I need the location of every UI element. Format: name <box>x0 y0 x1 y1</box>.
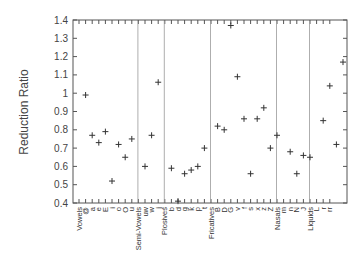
y-tick-label: 0.9 <box>54 106 68 117</box>
data-point-marker <box>129 136 135 142</box>
data-points <box>83 22 346 204</box>
data-point-marker <box>234 74 240 80</box>
data-point-marker <box>261 105 267 111</box>
data-point-marker <box>221 127 227 133</box>
plot-frame <box>73 20 347 203</box>
y-tick-label: 1.4 <box>54 15 68 26</box>
data-point-marker <box>340 59 346 65</box>
data-point-marker <box>168 165 174 171</box>
data-point-marker <box>122 154 128 160</box>
data-point-marker <box>267 145 273 151</box>
data-point-marker <box>215 123 221 129</box>
data-point-marker <box>327 83 333 89</box>
data-point-marker <box>248 171 254 177</box>
y-tick-label: 1.1 <box>54 69 68 80</box>
data-point-marker <box>142 163 148 169</box>
data-point-marker <box>96 140 102 146</box>
data-point-marker <box>188 167 194 173</box>
data-point-marker <box>228 22 234 28</box>
y-tick-label: 0.4 <box>54 198 68 209</box>
data-point-marker <box>241 116 247 122</box>
y-axis: 0.40.50.60.70.80.911.11.21.31.4 <box>54 15 347 209</box>
data-point-marker <box>109 178 115 184</box>
y-tick-label: 0.7 <box>54 143 68 154</box>
data-point-marker <box>274 132 280 138</box>
data-point-marker <box>102 129 108 135</box>
y-tick-label: 1.3 <box>54 33 68 44</box>
data-point-marker <box>89 132 95 138</box>
y-tick-label: 1.2 <box>54 51 68 62</box>
data-point-marker <box>182 171 188 177</box>
data-point-marker <box>201 145 207 151</box>
data-point-marker <box>195 163 201 169</box>
data-point-marker <box>149 132 155 138</box>
y-tick-label: 0.5 <box>54 179 68 190</box>
data-point-marker <box>320 118 326 124</box>
scatter-chart: Reduction Ratio 0.40.50.60.70.80.911.11.… <box>0 0 363 266</box>
data-point-marker <box>116 141 122 147</box>
data-point-marker <box>287 149 293 155</box>
data-point-marker <box>333 141 339 147</box>
data-point-marker <box>155 79 161 85</box>
y-tick-label: 1 <box>62 88 68 99</box>
data-point-marker <box>254 116 260 122</box>
data-point-marker <box>307 154 313 160</box>
data-point-marker <box>83 92 89 98</box>
x-axis: Vowels@aeEioOuSemi-VowelsuwwjPlosivesbdg… <box>75 20 335 250</box>
y-tick-label: 0.8 <box>54 124 68 135</box>
data-point-marker <box>300 152 306 158</box>
y-tick-label: 0.6 <box>54 161 68 172</box>
data-point-marker <box>294 171 300 177</box>
category-label: rr <box>325 207 334 212</box>
group-separators <box>138 20 310 203</box>
y-axis-title: Reduction Ratio <box>17 69 31 155</box>
